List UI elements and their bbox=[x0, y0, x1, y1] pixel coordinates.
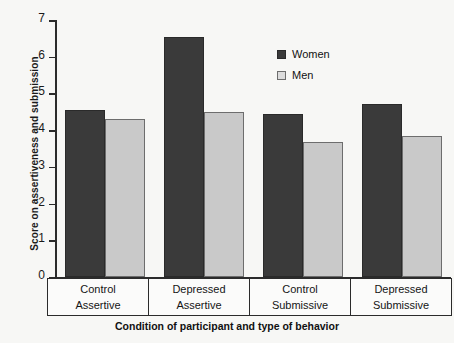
legend-item-women: Women bbox=[277, 48, 330, 60]
category-behavior-label: Submissive bbox=[272, 299, 328, 311]
category-cell: DepressedAssertive bbox=[149, 279, 250, 315]
y-axis-tick-label: 6 bbox=[38, 48, 45, 62]
x-axis-category-table: ControlAssertiveDepressedAssertiveContro… bbox=[47, 278, 452, 316]
y-axis-tick: 7 bbox=[49, 20, 55, 22]
bar-men bbox=[204, 112, 244, 277]
y-axis-tick-label: 3 bbox=[38, 158, 45, 172]
y-axis-tick-label: 1 bbox=[38, 231, 45, 245]
bar-women bbox=[65, 110, 105, 277]
y-axis-tick: 6 bbox=[49, 57, 55, 59]
y-axis-tick-label: 2 bbox=[38, 195, 45, 209]
category-cell: ControlAssertive bbox=[48, 279, 149, 315]
category-cell: DepressedSubmissive bbox=[351, 279, 451, 315]
legend-swatch-men-icon bbox=[277, 71, 286, 80]
plot-area: 01234567 bbox=[55, 20, 451, 277]
y-axis-tick-label: 5 bbox=[38, 84, 45, 98]
legend-item-men: Men bbox=[277, 69, 330, 81]
category-behavior-label: Assertive bbox=[176, 299, 221, 311]
category-condition-label: Control bbox=[282, 283, 317, 295]
bar-women bbox=[362, 104, 402, 277]
y-axis-tick: 3 bbox=[49, 167, 55, 169]
bar-women bbox=[263, 114, 303, 277]
bar-chart-figure: Score on assertiveness and submission 01… bbox=[0, 0, 454, 343]
category-condition-label: Control bbox=[80, 283, 115, 295]
y-axis-tick: 1 bbox=[49, 240, 55, 242]
category-cell: ControlSubmissive bbox=[250, 279, 351, 315]
legend: Women Men bbox=[277, 48, 330, 90]
category-condition-label: Depressed bbox=[374, 283, 427, 295]
y-axis-tick: 4 bbox=[49, 130, 55, 132]
bar-men bbox=[105, 119, 145, 277]
category-condition-label: Depressed bbox=[172, 283, 225, 295]
y-axis-line bbox=[55, 20, 57, 278]
category-behavior-label: Assertive bbox=[75, 299, 120, 311]
x-axis-title: Condition of participant and type of beh… bbox=[0, 320, 454, 332]
bar-men bbox=[402, 136, 442, 277]
y-axis-tick-label: 4 bbox=[38, 121, 45, 135]
legend-label-women: Women bbox=[292, 48, 330, 60]
bar-men bbox=[303, 142, 343, 277]
legend-label-men: Men bbox=[292, 69, 313, 81]
legend-swatch-women-icon bbox=[277, 50, 286, 59]
y-axis-tick-label: 7 bbox=[38, 11, 45, 25]
y-axis-tick-label: 0 bbox=[38, 268, 45, 282]
y-axis-tick: 5 bbox=[49, 93, 55, 95]
bar-women bbox=[164, 37, 204, 277]
y-axis-tick: 2 bbox=[49, 204, 55, 206]
category-behavior-label: Submissive bbox=[373, 299, 429, 311]
